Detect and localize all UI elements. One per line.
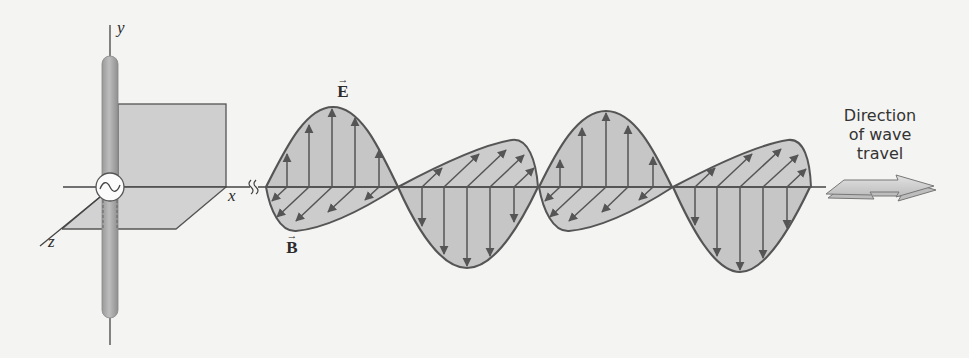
axis-break-icon (249, 180, 258, 194)
b-symbol: B (286, 238, 297, 257)
e-symbol: E (337, 82, 348, 101)
em-wave-diagram: y x z → E → B Direction of wave travel (0, 0, 969, 358)
e-field-lobe-2 (398, 187, 538, 268)
ac-source-icon (96, 173, 124, 201)
x-axis-label: x (228, 186, 236, 206)
diagram-canvas (0, 0, 969, 358)
em-wave (266, 107, 811, 272)
b-field-label: → B (283, 232, 301, 256)
direction-line-2: of wave (820, 125, 940, 144)
xy-plane (118, 104, 226, 187)
z-axis-label: z (48, 232, 55, 252)
e-field-label: → E (334, 76, 352, 100)
y-axis-label: y (117, 18, 125, 38)
direction-of-travel-label: Direction of wave travel (820, 106, 940, 163)
e-field-lobe-4 (673, 187, 810, 272)
direction-line-3: travel (820, 144, 940, 163)
direction-line-1: Direction (820, 106, 940, 125)
direction-arrow-icon (826, 175, 936, 201)
